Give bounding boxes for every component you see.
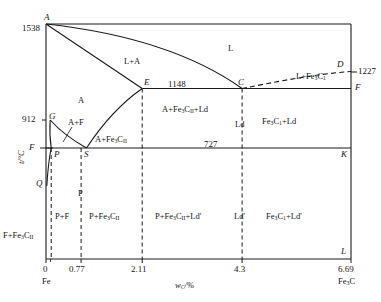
x-axis-right-endpoint-label: Fe3C (338, 277, 355, 287)
phase-diagram-figure: t/°C wC/% 0 0.77 2.11 4.3 6.69 Fe Fe3C 1… (0, 0, 381, 302)
xtick-label-077: 0.77 (69, 265, 85, 274)
point-label-L: L (341, 247, 346, 256)
point-label-S: S (84, 150, 89, 159)
x-axis-left-endpoint-label: Fe (42, 277, 51, 286)
region-label-A-Fe3CII: A+Fe3CII (95, 135, 127, 145)
temp-label-1148: 1148 (168, 80, 186, 89)
region-label-Fe3C1-Ldprime: Fe3C1+Ld' (266, 212, 302, 222)
region-label-L: L (228, 44, 233, 53)
temp-label-727: 727 (204, 140, 218, 149)
temp-label-912: 912 (22, 115, 36, 124)
point-label-K: K (341, 150, 347, 159)
region-label-P-Fe3CII: P+Fe3CII (89, 212, 119, 222)
region-label-P-Fe3CII-Ldprime: P+Fe3CII+Ld' (155, 212, 201, 222)
point-label-E: E (144, 78, 150, 87)
point-label-C: C (238, 78, 244, 87)
region-label-A-F: A+F (68, 118, 84, 127)
y-axis-label: t/°C (16, 150, 26, 164)
region-label-Ld: Ld (235, 120, 244, 129)
point-label-D: D (337, 60, 344, 69)
region-label-Ldprime: Ld' (234, 212, 245, 221)
xtick-label-0: 0 (43, 265, 48, 274)
region-label-A-Fe3CII-Ld: A+Fe3CII+Ld (162, 105, 208, 115)
point-label-G: G (49, 112, 56, 121)
region-label-L-A: L+A (124, 57, 140, 66)
region-label-F-Fe3CII: F+Fe3CII (3, 231, 33, 241)
region-label-P-F: P+F (55, 212, 69, 221)
temp-label-1227: 1227 (358, 67, 376, 76)
point-label-F: F (355, 83, 361, 92)
temp-label-1538: 1538 (22, 24, 40, 33)
region-label-A: A (78, 96, 84, 105)
point-label-Q: Q (36, 179, 43, 188)
xtick-label-211: 2.11 (131, 265, 146, 274)
point-label-P: P (54, 150, 60, 159)
pq-curve (47, 148, 51, 186)
ytick-label-F-left: F (29, 143, 35, 152)
xtick-label-669: 6.69 (338, 265, 354, 274)
x-axis-label: wC/% (175, 281, 194, 291)
region-label-P-pearlite: P (78, 189, 83, 198)
region-label-L-Fe3C1: L+Fe3C1 (296, 72, 326, 82)
region-label-Fe3C1-Ld: Fe3C1+Ld (262, 117, 296, 127)
leader-line-AF (63, 127, 72, 142)
point-label-A: A (44, 13, 50, 22)
gp-curve (50, 120, 51, 148)
xtick-label-43: 4.3 (234, 265, 245, 274)
